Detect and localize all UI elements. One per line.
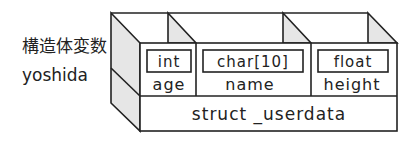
member-name-name: name xyxy=(225,75,274,94)
struct-box-diagram: int age char[10] name float height struc… xyxy=(0,0,414,142)
member-name-age: age xyxy=(153,75,186,94)
box-right-side-face xyxy=(368,13,397,43)
member-type-float: float xyxy=(334,53,373,71)
member-type-int: int xyxy=(158,53,181,71)
member-name-height: height xyxy=(324,75,381,94)
member-height: float height xyxy=(318,50,388,94)
struct-type-name: struct _userdata xyxy=(192,104,346,125)
partition-wall-2 xyxy=(283,13,311,43)
member-type-char: char[10] xyxy=(217,53,289,71)
partition-wall-1 xyxy=(168,13,196,43)
member-age: int age xyxy=(147,50,191,94)
